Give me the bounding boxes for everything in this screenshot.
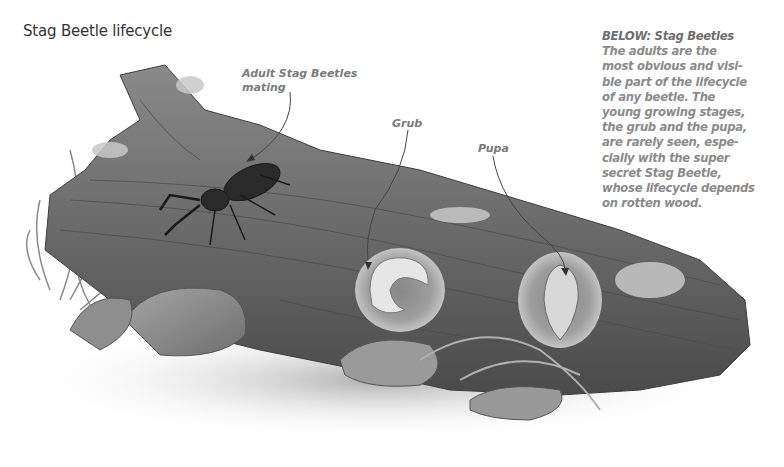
caption-heading: BELOW: Stag Beetles — [602, 29, 784, 44]
caption-body: The adults are the most obvious and visi… — [602, 44, 784, 211]
label-pupa: Pupa — [478, 142, 509, 156]
label-adult-stag-beetles: Adult Stag Beetles mating — [242, 67, 357, 95]
label-grub: Grub — [392, 117, 422, 131]
caption-block: BELOW: Stag Beetles The adults are the m… — [602, 29, 784, 211]
